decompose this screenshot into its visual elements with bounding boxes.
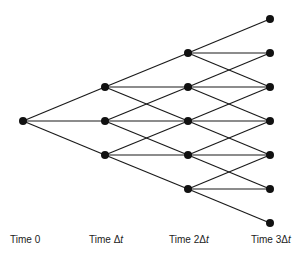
tree-node <box>101 117 109 125</box>
tree-node <box>184 151 192 159</box>
tree-edge <box>23 87 105 121</box>
time-label-text: Time 0 <box>10 234 40 245</box>
tree-node <box>266 219 274 227</box>
tree-node <box>266 117 274 125</box>
trinomial-tree <box>0 0 305 260</box>
tree-node <box>101 83 109 91</box>
time-label-text: Time 2Δ <box>169 234 206 245</box>
time-label-3: Time 3Δt <box>251 234 291 245</box>
time-label-text: Time Δ <box>89 234 120 245</box>
tree-edge <box>23 121 105 155</box>
tree-edge <box>105 53 188 87</box>
tree-edge <box>105 155 188 189</box>
time-label-text: Time 3Δ <box>251 234 288 245</box>
tree-edge <box>188 19 270 53</box>
tree-node <box>266 83 274 91</box>
time-label-var: t <box>120 234 123 245</box>
time-label-0: Time 0 <box>10 234 40 245</box>
tree-node <box>266 185 274 193</box>
time-label-var: t <box>206 234 209 245</box>
tree-node <box>101 151 109 159</box>
time-label-2: Time 2Δt <box>169 234 209 245</box>
tree-node <box>266 49 274 57</box>
tree-node <box>19 117 27 125</box>
tree-node <box>184 83 192 91</box>
tree-node <box>184 185 192 193</box>
tree-edge <box>188 189 270 223</box>
time-label-1: Time Δt <box>89 234 123 245</box>
tree-node <box>184 49 192 57</box>
tree-edges <box>23 19 270 223</box>
time-label-var: t <box>288 234 291 245</box>
tree-node <box>266 15 274 23</box>
tree-node <box>266 151 274 159</box>
tree-node <box>184 117 192 125</box>
